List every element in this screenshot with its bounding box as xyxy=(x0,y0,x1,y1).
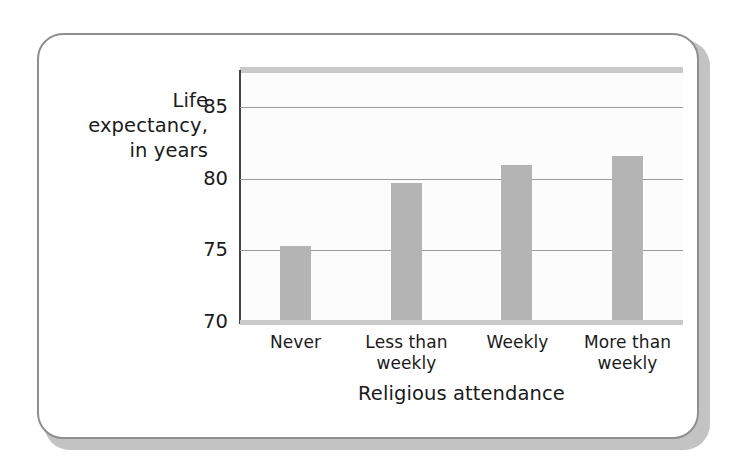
bar-0 xyxy=(280,246,311,322)
bar-chart: Life expectancy, in years 70758085 Never… xyxy=(0,0,753,465)
x-tick-label-2: Weekly xyxy=(462,332,573,353)
y-tick-label-75: 75 xyxy=(176,240,228,260)
x-tick-label-1: Less than weekly xyxy=(351,332,462,374)
bar-3 xyxy=(612,156,643,322)
x-tick-label-3: More than weekly xyxy=(572,332,683,374)
x-tick-label-0: Never xyxy=(240,332,351,353)
gridline-85 xyxy=(240,107,683,108)
x-axis-baseline xyxy=(240,320,683,325)
y-tick-label-80: 80 xyxy=(176,169,228,189)
y-tick-label-70: 70 xyxy=(176,312,228,332)
y-axis-spine xyxy=(239,70,241,324)
y-tick-label-85: 85 xyxy=(176,97,228,117)
x-axis-title: Religious attendance xyxy=(240,382,683,405)
bar-1 xyxy=(391,183,422,322)
bar-2 xyxy=(501,165,532,322)
